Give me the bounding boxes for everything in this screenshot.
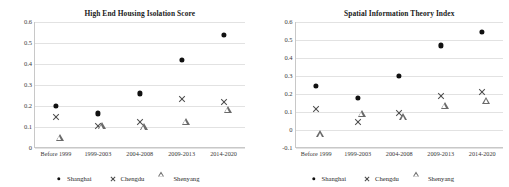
y-axis-tick-label: -0.1 <box>282 145 292 152</box>
y-axis-tick-label: 0.5 <box>284 37 292 44</box>
y-axis-tick-label: 0.2 <box>284 91 292 98</box>
gridline <box>296 148 504 149</box>
gridline <box>35 106 245 107</box>
y-axis-tick-label: 0.4 <box>284 55 292 62</box>
y-axis-tick-label: 0.4 <box>24 61 32 68</box>
plot-area-right: Spatial Information Theory Index -0.100.… <box>295 22 504 148</box>
gridline <box>35 43 245 44</box>
gridline <box>296 40 504 41</box>
filled-circle-icon <box>312 177 315 180</box>
y-axis-tick-label: 0.1 <box>24 124 32 131</box>
gridline <box>35 127 245 128</box>
data-point-chengdu-3 <box>178 95 186 103</box>
x-axis-tick-label: 1999-2003 <box>344 151 371 157</box>
gridline <box>296 112 504 113</box>
data-point-shanghai-4 <box>480 29 485 34</box>
legend-marker-triangle-icon <box>161 175 169 183</box>
data-point-shanghai-1 <box>355 95 360 100</box>
x-axis-tick-label: Before 1999 <box>301 151 332 157</box>
legend-item-shanghai[interactable]: Shanghai <box>310 175 347 183</box>
x-axis-tick-label: Before 1999 <box>41 151 72 157</box>
data-point-shanghai-3 <box>179 57 184 62</box>
data-point-chengdu-2 <box>136 118 144 126</box>
y-axis-tick-label: 0.3 <box>284 73 292 80</box>
data-point-shanghai-2 <box>137 91 142 96</box>
legend-item-shenyang[interactable]: Shenyang <box>161 175 199 183</box>
gridline <box>35 148 245 149</box>
x-axis-tick-label: 2004-2008 <box>126 151 153 157</box>
data-point-chengdu-1 <box>94 122 102 130</box>
y-axis-tick-label: 0.3 <box>24 82 32 89</box>
legend-label: Shanghai <box>67 176 92 183</box>
x-axis-tick-label: 2009-2013 <box>427 151 454 157</box>
panel-high-end-housing-isolation-score: High End Housing Isolation Score 00.10.2… <box>0 0 255 187</box>
x-axis-tick-label: 2009-2013 <box>168 151 195 157</box>
legend-marker-cross-icon <box>109 175 117 183</box>
chart-title-right: Spatial Information Theory Index <box>296 10 504 17</box>
gridline <box>296 22 504 23</box>
data-point-chengdu-4 <box>220 98 228 106</box>
x-axis-line-right <box>296 147 504 148</box>
legend-label: Shenyang <box>428 176 454 183</box>
data-point-chengdu-1 <box>354 118 362 126</box>
legend-item-chengdu[interactable]: Chengdu <box>363 175 399 183</box>
data-point-chengdu-3 <box>437 92 445 100</box>
chart-title-left: High End Housing Isolation Score <box>35 10 245 17</box>
gridline <box>296 130 504 131</box>
legend-right: ShanghaiChengduShenyang <box>255 175 509 183</box>
x-axis-tick-label: 1999-2003 <box>84 151 111 157</box>
filled-circle-icon <box>57 177 60 180</box>
legend-label: Shenyang <box>173 176 199 183</box>
legend-left: ShanghaiChengduShenyang <box>0 175 255 183</box>
legend-label: Chengdu <box>375 176 399 183</box>
legend-marker-filled-circle-icon <box>310 175 318 183</box>
data-point-chengdu-0 <box>52 113 60 121</box>
y-axis-tick-label: 0.1 <box>284 109 292 116</box>
y-axis-tick-label: 0.6 <box>284 19 292 26</box>
legend-marker-cross-icon <box>363 175 371 183</box>
cross-icon <box>364 176 370 182</box>
plot-area-left: High End Housing Isolation Score 00.10.2… <box>34 22 245 148</box>
gridline <box>35 64 245 65</box>
legend-item-shanghai[interactable]: Shanghai <box>55 175 92 183</box>
cross-icon <box>110 176 116 182</box>
data-point-shanghai-0 <box>314 83 319 88</box>
legend-label: Chengdu <box>121 176 145 183</box>
y-axis-tick-label: 0.2 <box>24 103 32 110</box>
legend-marker-filled-circle-icon <box>55 175 63 183</box>
x-axis-line-left <box>35 147 245 148</box>
x-axis-tick-label: 2004-2008 <box>386 151 413 157</box>
y-axis-tick-label: 0 <box>289 127 292 134</box>
y-axis-tick-label: 0.6 <box>24 19 32 26</box>
y-axis-tick-label: 0 <box>29 145 32 152</box>
legend-marker-triangle-icon <box>416 175 424 183</box>
x-axis-tick-label: 2014-2020 <box>210 151 237 157</box>
figure-two-panel-scatter: High End Housing Isolation Score 00.10.2… <box>0 0 509 187</box>
legend-item-chengdu[interactable]: Chengdu <box>109 175 145 183</box>
x-axis-tick-label: 2014-2020 <box>469 151 496 157</box>
data-point-shanghai-3 <box>438 43 443 48</box>
gridline <box>35 85 245 86</box>
legend-label: Shanghai <box>322 176 347 183</box>
data-point-shanghai-1 <box>95 111 100 116</box>
legend-item-shenyang[interactable]: Shenyang <box>416 175 454 183</box>
data-point-shanghai-4 <box>221 32 226 37</box>
gridline <box>296 58 504 59</box>
panel-spatial-information-theory-index: Spatial Information Theory Index -0.100.… <box>255 0 509 187</box>
gridline <box>296 76 504 77</box>
y-axis-tick-label: 0.5 <box>24 40 32 47</box>
gridline <box>296 94 504 95</box>
gridline <box>35 22 245 23</box>
